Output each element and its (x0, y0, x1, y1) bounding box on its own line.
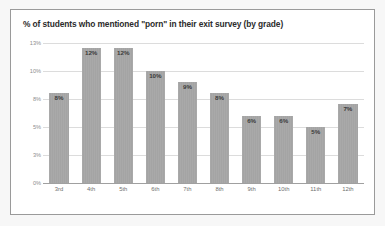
bar-slot: 10% (139, 37, 171, 183)
x-axis-tick-label: 6th (139, 186, 171, 200)
bar-value-label: 6% (274, 117, 293, 124)
bar[interactable]: 6% (242, 116, 261, 183)
x-axis-tick-label: 11th (300, 186, 332, 200)
bar-slot: 8% (203, 37, 235, 183)
bar[interactable]: 7% (338, 104, 357, 183)
bar-value-label: 7% (338, 105, 357, 112)
y-axis-tick-label: 10% (21, 68, 41, 74)
chart-card: % of students who mentioned "porn" in th… (10, 9, 375, 215)
bar-slot: 5% (300, 37, 332, 183)
x-axis-tick-label: 8th (203, 186, 235, 200)
bar[interactable]: 12% (114, 48, 133, 183)
x-axis-tick-label: 3rd (43, 186, 75, 200)
bar-value-label: 10% (146, 72, 165, 79)
x-axis-tick-label: 9th (236, 186, 268, 200)
bar-value-label: 12% (114, 49, 133, 56)
bar-value-label: 12% (82, 49, 101, 56)
bar[interactable]: 8% (49, 93, 68, 183)
bar[interactable]: 10% (146, 71, 165, 183)
bar-value-label: 5% (306, 128, 325, 135)
y-axis-tick-label: 13% (21, 40, 41, 46)
bar-value-label: 9% (178, 83, 197, 90)
x-axis-tick-label: 7th (171, 186, 203, 200)
x-axis-tick-label: 12th (332, 186, 364, 200)
y-axis-tick-label: 0% (21, 180, 41, 186)
bars-group: 8%12%12%10%9%8%6%6%5%7% (43, 37, 364, 183)
y-axis-tick-label: 8% (21, 96, 41, 102)
x-axis-ticks: 3rd4th5th6th7th8th9th10th11th12th (43, 186, 364, 200)
bar-slot: 7% (332, 37, 364, 183)
bar-slot: 12% (75, 37, 107, 183)
screenshot-root: % of students who mentioned "porn" in th… (0, 0, 385, 226)
x-axis-tick-label: 5th (107, 186, 139, 200)
bar-slot: 6% (236, 37, 268, 183)
y-axis-tick-label: 5% (21, 124, 41, 130)
bar[interactable]: 9% (178, 82, 197, 183)
bar-value-label: 8% (210, 94, 229, 101)
page-title: % of students who mentioned "porn" in th… (23, 19, 283, 29)
bar-slot: 12% (107, 37, 139, 183)
bar-slot: 9% (171, 37, 203, 183)
bar[interactable]: 5% (306, 127, 325, 183)
bar-slot: 6% (268, 37, 300, 183)
bar-value-label: 8% (49, 94, 68, 101)
bar[interactable]: 8% (210, 93, 229, 183)
y-axis-tick-label: 3% (21, 152, 41, 158)
bar-slot: 8% (43, 37, 75, 183)
x-axis-tick-label: 4th (75, 186, 107, 200)
bar-value-label: 6% (242, 117, 261, 124)
bar[interactable]: 6% (274, 116, 293, 183)
bar[interactable]: 12% (82, 48, 101, 183)
gridline (43, 183, 364, 184)
x-axis-tick-label: 10th (268, 186, 300, 200)
plot-area: 0%3%5%8%10%13% 8%12%12%10%9%8%6%6%5%7% 3… (21, 37, 366, 208)
